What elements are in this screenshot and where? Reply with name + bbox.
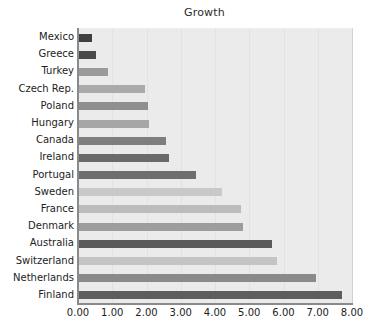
category-label-ireland: Ireland: [0, 151, 74, 162]
bar-row: [78, 29, 352, 46]
bar-row: [78, 149, 352, 166]
bar: [78, 68, 108, 76]
category-label-sweden: Sweden: [0, 186, 74, 197]
bar: [78, 85, 145, 93]
bar-row: [78, 63, 352, 80]
category-label-switzerland: Switzerland: [0, 255, 74, 266]
bar: [78, 34, 92, 42]
category-label-turkey: Turkey: [0, 65, 74, 76]
bar: [78, 137, 166, 145]
bar: [78, 171, 196, 179]
bar-row: [78, 115, 352, 132]
bar-row: [78, 270, 352, 287]
bar: [78, 274, 316, 282]
category-label-poland: Poland: [0, 100, 74, 111]
bar-row: [78, 132, 352, 149]
bar-row: [78, 201, 352, 218]
bar: [78, 120, 149, 128]
bar: [78, 51, 96, 59]
chart-title: Growth: [0, 6, 377, 19]
bar-row: [78, 287, 352, 304]
category-label-denmark: Denmark: [0, 220, 74, 231]
bar: [78, 154, 169, 162]
category-label-czech-rep: Czech Rep.: [0, 83, 74, 94]
bar: [78, 102, 148, 110]
bar: [78, 257, 277, 265]
bar-row: [78, 46, 352, 63]
category-label-portugal: Portugal: [0, 169, 74, 180]
category-label-australia: Australia: [0, 237, 74, 248]
bar-chart: Growth MexicoGreeceTurkeyCzech Rep.Polan…: [0, 0, 377, 333]
bar-row: [78, 167, 352, 184]
bar-row: [78, 218, 352, 235]
bar-row: [78, 252, 352, 269]
chart-title-text: Growth: [184, 6, 225, 19]
category-label-hungary: Hungary: [0, 117, 74, 128]
plot-area: [78, 28, 353, 304]
bar-row: [78, 81, 352, 98]
x-tick-label: 8.00: [332, 307, 372, 318]
bar-row: [78, 98, 352, 115]
bar: [78, 291, 342, 299]
bar: [78, 205, 241, 213]
category-label-finland: Finland: [0, 289, 74, 300]
bar-row: [78, 184, 352, 201]
gridline: [352, 29, 353, 304]
bar-row: [78, 235, 352, 252]
bar: [78, 188, 222, 196]
y-axis-line: [77, 28, 79, 304]
category-label-canada: Canada: [0, 134, 74, 145]
category-label-netherlands: Netherlands: [0, 272, 74, 283]
category-label-greece: Greece: [0, 48, 74, 59]
bar: [78, 223, 243, 231]
category-label-france: France: [0, 203, 74, 214]
category-label-mexico: Mexico: [0, 31, 74, 42]
x-axis-line: [77, 303, 353, 305]
bar: [78, 240, 272, 248]
